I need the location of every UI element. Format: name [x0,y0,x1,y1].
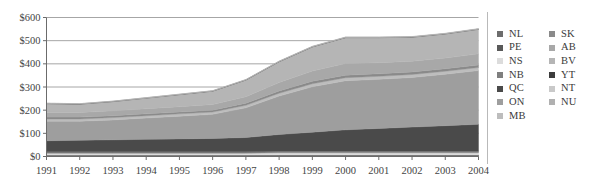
legend-item-label: PE [509,42,522,53]
legend-item-on: ON [497,95,526,109]
legend-column-2: SKABBVYTNTNU [549,27,577,109]
legend-item-pe: PE [497,41,526,55]
legend-item-label: NS [509,56,523,67]
x-axis-labels: 1991199219931994199519961997199819992000… [36,165,490,176]
x-axis-tick-label: 1993 [102,165,123,176]
x-axis-tick-label: 1999 [302,165,323,176]
x-axis-tick-label: 2001 [368,165,389,176]
legend-swatch-icon [497,113,503,119]
legend-item-nl: NL [497,27,526,41]
legend-swatch-icon [549,86,555,92]
x-axis-tick-label: 1998 [269,165,290,176]
area-series-group [47,29,479,157]
legend-swatch-icon [549,72,555,78]
x-axis-tick-label: 2003 [435,165,456,176]
legend-item-label: AB [561,42,576,53]
legend-swatch-icon [497,58,503,64]
legend-item-nb: NB [497,68,526,82]
x-axis-tick-label: 2000 [335,165,356,176]
legend-item-label: NB [509,70,524,81]
x-tick-marks [47,157,479,161]
x-axis-tick-label: 1997 [235,165,256,176]
legend-item-label: NL [509,29,523,40]
legend-swatch-icon [497,99,503,105]
legend-item-label: NT [561,83,575,94]
x-axis-tick-label: 1992 [69,165,90,176]
legend-item-label: YT [561,70,575,81]
legend-swatch-icon [549,31,555,37]
x-axis-tick-label: 1994 [136,165,158,176]
legend-swatch-icon [549,99,555,105]
legend-swatch-icon [497,31,503,37]
legend-swatch-icon [497,86,503,92]
legend-item-bv: BV [549,54,577,68]
legend-item-ns: NS [497,54,526,68]
chart-legend: NLPENSNBQCONMB SKABBVYTNTNU [497,27,597,127]
y-axis-tick-label: $300 [20,82,41,93]
legend-swatch-icon [497,45,503,51]
legend-swatch-icon [497,72,503,78]
y-axis-labels: $0$100$200$300$400$500$600 [20,12,41,162]
legend-item-yt: YT [549,68,577,82]
x-axis-tick-label: 1991 [36,165,57,176]
y-axis-tick-label: $400 [20,58,41,69]
legend-item-ab: AB [549,41,577,55]
legend-item-label: BV [561,56,576,67]
y-axis-tick-label: $200 [20,105,41,116]
legend-item-mb: MB [497,109,526,123]
legend-item-label: ON [509,97,525,108]
legend-swatch-icon [549,45,555,51]
x-axis-tick-label: 2004 [468,165,490,176]
x-axis-tick-label: 1995 [169,165,190,176]
y-axis-tick-label: $100 [20,128,41,139]
y-axis-tick-label: $500 [20,35,41,46]
chart-screenshot: $0$100$200$300$400$500$600 1991199219931… [0,0,603,188]
legend-item-qc: QC [497,82,526,96]
legend-column-1: NLPENSNBQCONMB [497,27,526,123]
y-axis-tick-label: $0 [30,151,41,162]
x-axis-tick-label: 2002 [402,165,423,176]
legend-item-label: MB [509,111,526,122]
x-axis-tick-label: 1996 [202,165,223,176]
legend-item-nu: NU [549,95,577,109]
legend-item-label: SK [561,29,575,40]
legend-item-label: NU [561,97,577,108]
legend-item-label: QC [509,83,524,94]
legend-separator [487,12,488,164]
legend-item-nt: NT [549,82,577,96]
y-axis-tick-label: $600 [20,12,41,23]
legend-swatch-icon [549,58,555,64]
legend-item-sk: SK [549,27,577,41]
